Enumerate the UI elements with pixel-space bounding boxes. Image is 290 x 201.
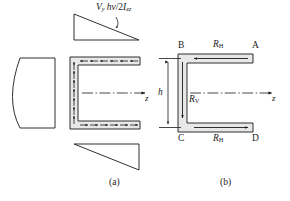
panel-a-formula-leader	[116, 17, 118, 28]
panel-a-z-axis-label: z	[145, 94, 149, 103]
panel-a-top-triangle	[74, 14, 139, 40]
force-label-rh-top: RH	[213, 40, 223, 50]
dimension-label-h: h	[158, 88, 163, 98]
panel-a-bottom-triangle	[74, 144, 139, 170]
corner-label-a: A	[252, 41, 259, 51]
shear-flow-figure: Vyhv/2Izz z (a) B A C D RH RH RV h z (b)	[0, 0, 290, 201]
corner-label-c: C	[178, 134, 184, 144]
panel-b-z-axis-label: z	[272, 94, 276, 103]
panel-a-caption: (a)	[109, 178, 120, 188]
shear-flow-formula: Vyhv/2Izz	[96, 3, 131, 13]
corner-label-b: B	[178, 41, 184, 51]
panel-a-web-parabola	[13, 58, 56, 128]
force-label-rv-web: RV	[189, 95, 199, 105]
panel-b-caption: (b)	[220, 178, 231, 188]
force-label-rh-bottom: RH	[213, 134, 223, 144]
corner-label-d: D	[252, 134, 259, 144]
